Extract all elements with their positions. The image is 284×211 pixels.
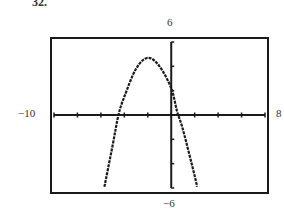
axes [54,42,265,188]
parabola-curve [104,58,197,187]
graph-window [0,0,284,211]
